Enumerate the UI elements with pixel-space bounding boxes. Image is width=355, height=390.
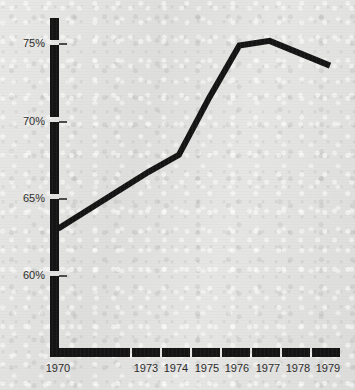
x-tick-label-1977: 1977 <box>251 362 285 374</box>
chart-container: 75% 70% 65% 60% 1970 1973 1974 1975 1976… <box>0 0 355 390</box>
x-axis <box>50 348 340 357</box>
y-axis <box>50 18 59 348</box>
x-tick-label-1973: 1973 <box>129 362 163 374</box>
y-tick-label-75: 75% <box>5 37 45 49</box>
x-tick-label-1978: 1978 <box>281 362 315 374</box>
y-axis-ticks <box>59 43 67 277</box>
x-tick-label-1974: 1974 <box>159 362 193 374</box>
data-line <box>58 41 330 229</box>
y-tick-label-70: 70% <box>5 115 45 127</box>
line-chart-graphic <box>0 0 355 390</box>
x-tick-label-1976: 1976 <box>220 362 254 374</box>
x-tick-label-1970: 1970 <box>41 362 75 374</box>
y-tick-label-60: 60% <box>5 269 45 281</box>
x-tick-label-1975: 1975 <box>190 362 224 374</box>
y-tick-label-65: 65% <box>5 192 45 204</box>
x-tick-label-1979: 1979 <box>311 362 345 374</box>
